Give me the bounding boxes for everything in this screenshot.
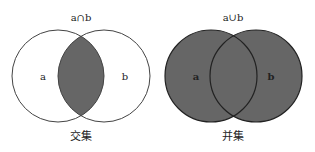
union-label-b: b: [268, 71, 275, 82]
union-label-a: a: [193, 71, 200, 82]
union-title: a∪b: [223, 12, 244, 23]
union-diagram: a∪b a b 并集: [165, 12, 302, 143]
intersection-diagram: a∩b a b 交集: [12, 12, 150, 143]
intersection-label-b: b: [122, 71, 128, 82]
intersection-caption: 交集: [70, 129, 92, 143]
intersection-label-a: a: [40, 71, 46, 82]
venn-diagrams: a∩b a b 交集 a∪b a b 并集: [0, 0, 315, 152]
union-caption: 并集: [222, 129, 244, 143]
intersection-title: a∩b: [71, 12, 92, 23]
